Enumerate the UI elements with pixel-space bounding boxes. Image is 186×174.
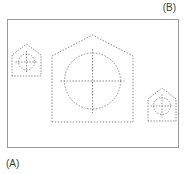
large-house-center [52,35,133,122]
figure-canvas: (B) (A) [0,0,186,174]
small-house-right [148,88,176,121]
small-house-right-outline [148,88,176,121]
label-a: (A) [6,158,19,170]
technical-drawing [0,0,186,174]
label-b: (B) [163,2,176,14]
small-house-left-circle [19,54,35,70]
small-house-left [12,44,41,76]
